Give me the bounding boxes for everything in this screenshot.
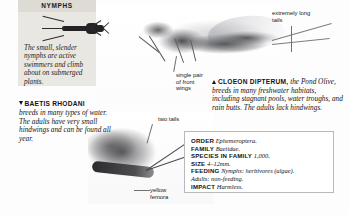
- leg: [190, 40, 197, 62]
- fact-key: FEEDING: [191, 167, 220, 174]
- nymph-tail: [43, 16, 65, 22]
- nymphs-panel: NYMPHS The small, slender nymphs are act…: [18, 0, 96, 86]
- fact-row: SIZE 4–12mm.: [191, 160, 327, 168]
- triangle-up-icon: [212, 80, 216, 84]
- leader-line-two-tails: [146, 124, 152, 144]
- fact-feeding-subline: Adults: non-feeding.: [191, 175, 327, 183]
- fact-value: 4–12mm.: [207, 160, 231, 167]
- leader-line-long-tails: [291, 26, 292, 52]
- fact-value: Nymphs: herbivores (algae).: [221, 167, 294, 174]
- cloeon-species-name: CLOEON DIPTERUM,: [218, 78, 288, 85]
- leg: [138, 36, 159, 53]
- nymph-leg: [90, 28, 101, 36]
- annotation-yellow-femora: yellow femora: [150, 187, 182, 200]
- nymph-antenna: [102, 27, 109, 34]
- nymph-thorax: [86, 23, 98, 34]
- leader-line-yellow-femora: [134, 190, 150, 191]
- fact-value: Ephemeroptera.: [216, 137, 257, 144]
- abdomen: [92, 161, 155, 178]
- nymph-tail: [43, 35, 65, 41]
- annotation-long-tails: extremely long tails: [272, 10, 318, 23]
- nymph-leg: [90, 20, 101, 28]
- fact-box: ORDER Ephemeroptera. FAMILY Baetidae. SP…: [184, 131, 334, 193]
- nymphs-panel-title: NYMPHS: [18, 0, 96, 12]
- encyclopedia-page: NYMPHS The small, slender nymphs are act…: [0, 0, 349, 215]
- nymph-tail: [42, 28, 64, 29]
- fact-value: Baetidae.: [216, 145, 240, 152]
- nymph-illustration: [42, 16, 108, 40]
- baetis-caption-text: breeds in many types of water. The adult…: [19, 108, 111, 143]
- fact-row: SPECIES IN FAMILY 1,000.: [191, 152, 327, 160]
- fact-key: FAMILY: [191, 145, 214, 152]
- annotation-two-tails: two tails: [158, 116, 180, 123]
- annotation-front-wings: single pair of front wings: [176, 72, 204, 92]
- fact-key: SIZE: [191, 160, 205, 167]
- fact-key: SPECIES IN FAMILY: [191, 152, 252, 159]
- cloeon-caption: CLOEON DIPTERUM, the Pond Olive, breeds …: [212, 78, 345, 113]
- tail-filament: [272, 38, 330, 45]
- fact-value: 1,000.: [254, 152, 270, 159]
- fact-row: ORDER Ephemeroptera.: [191, 137, 327, 145]
- nymph-antenna: [102, 22, 109, 29]
- nymph-abdomen: [62, 26, 88, 31]
- baetis-caption: BAETIS RHODANI breeds in many types of w…: [19, 100, 111, 143]
- leader-line-front-wings: [173, 56, 177, 72]
- nymphs-panel-body: The small, slender nymphs are active swi…: [24, 44, 92, 86]
- fact-row: IMPACT Harmless.: [191, 183, 327, 191]
- baetis-species-name: BAETIS RHODANI: [25, 100, 85, 107]
- leg: [148, 36, 165, 62]
- triangle-down-icon: [19, 101, 23, 105]
- tail-filament: [272, 23, 332, 41]
- fact-key: ORDER: [191, 137, 214, 144]
- fact-row: FEEDING Nymphs: herbivores (algae).: [191, 167, 327, 175]
- fact-row: FAMILY Baetidae.: [191, 145, 327, 153]
- nymph-head: [96, 25, 104, 32]
- fact-key: IMPACT: [191, 183, 215, 190]
- fact-value: Harmless.: [217, 183, 243, 190]
